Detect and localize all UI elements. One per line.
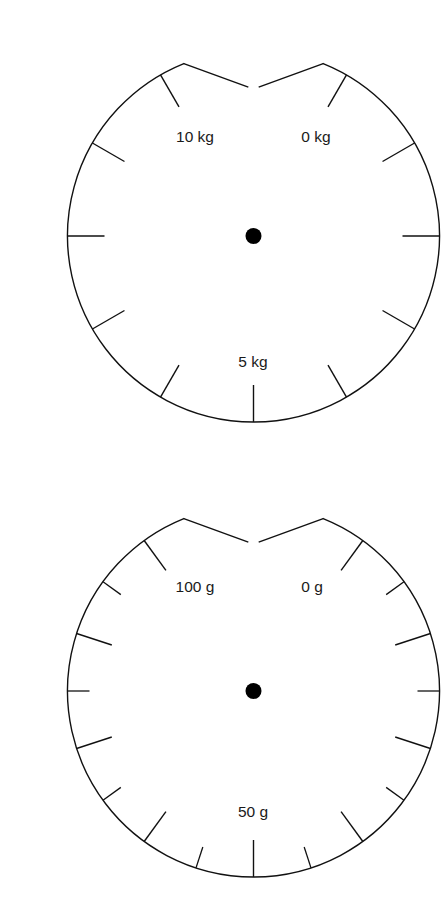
dial-scale-label: 5 kg [238,353,267,370]
dial-tick-minor [103,787,121,800]
dial-tick-major [161,365,180,397]
gram-dial-svg: 0 g50 g100 g [40,466,445,901]
dial-tick-major [144,541,166,571]
dial-tick-gap-edge [259,64,323,88]
dial-tick-minor [386,582,404,595]
dial-scale-label: 100 g [176,578,215,595]
dial-tick-major [92,311,124,330]
kilogram-dial-figure: 0 kg5 kg10 kg [40,16,445,466]
dial-tick-gap-edge [184,519,248,543]
dial-tick-major [341,812,363,842]
kilogram-dial-labels: 0 kg5 kg10 kg [176,128,331,370]
dial-tick-gap-edge [184,64,248,88]
dial-tick-major [328,365,347,397]
dial-tick-major [77,634,112,645]
dial-scale-label: 10 kg [176,128,214,145]
dial-center-hub [246,228,262,244]
dial-tick-major [383,143,415,162]
dial-scale-label: 0 kg [301,128,330,145]
kilogram-dial-svg: 0 kg5 kg10 kg [40,16,445,466]
dial-tick-major [144,812,166,842]
gram-dial-hub [246,683,262,699]
dial-tick-major [395,634,430,645]
dial-tick-minor [103,582,121,595]
dial-tick-minor [196,847,203,868]
dial-tick-major [92,143,124,162]
gram-dial-labels: 0 g50 g100 g [176,578,323,820]
dial-tick-minor [304,847,311,868]
dial-center-hub [246,683,262,699]
dial-tick-major [395,737,430,748]
dial-scale-label: 0 g [301,578,323,595]
dial-tick-major [77,737,112,748]
dial-tick-minor [386,787,404,800]
kilogram-dial-hub [246,228,262,244]
dial-tick-major [328,75,347,107]
dial-tick-major [383,311,415,330]
dial-scale-label: 50 g [238,803,268,820]
dial-tick-major [161,75,180,107]
dial-tick-major [341,541,363,571]
gram-dial-figure: 0 g50 g100 g [40,466,445,901]
dial-tick-gap-edge [259,519,323,543]
